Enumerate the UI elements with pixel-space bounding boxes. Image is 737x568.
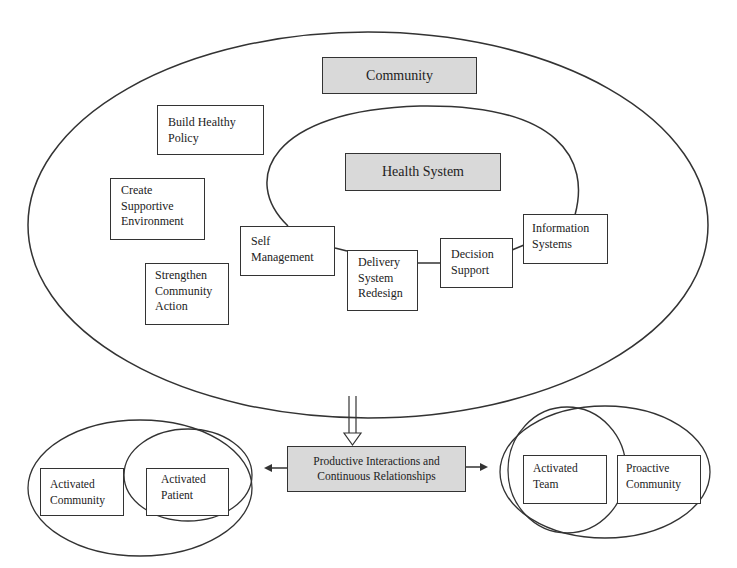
delivery-system-redesign-box: Delivery System Redesign bbox=[347, 250, 418, 311]
information-systems-box: Information Systems bbox=[523, 214, 608, 264]
right-arrow-icon bbox=[466, 463, 488, 471]
down-arrow-icon bbox=[344, 396, 361, 445]
community-label: Community bbox=[366, 68, 433, 84]
activated-patient-box: Activated Patient bbox=[146, 468, 229, 516]
create-supportive-environment-box: Create Supportive Environment bbox=[110, 178, 205, 240]
decision-support-box: Decision Support bbox=[440, 238, 513, 288]
proactive-community-box: Proactive Community bbox=[617, 455, 701, 504]
build-healthy-policy-box: Build Healthy Policy bbox=[157, 105, 264, 155]
community-title: Community bbox=[322, 57, 477, 94]
activated-team-box: Activated Team bbox=[523, 455, 607, 504]
left-arrow-icon bbox=[264, 464, 287, 472]
productive-interactions-box: Productive Interactions and Continuous R… bbox=[287, 446, 466, 492]
activated-community-box: Activated Community bbox=[40, 468, 124, 516]
health-system-title: Health System bbox=[345, 153, 501, 191]
strengthen-community-action-box: Strengthen Community Action bbox=[145, 263, 229, 325]
self-management-box: Self Management bbox=[240, 226, 335, 276]
health-system-label: Health System bbox=[382, 164, 464, 180]
